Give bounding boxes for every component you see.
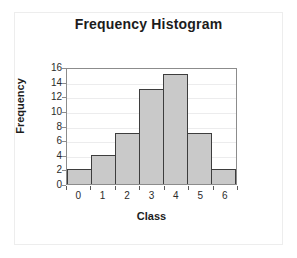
y-tick-label: 12 — [51, 92, 62, 102]
y-tick-mark — [62, 156, 66, 157]
y-tick-mark — [62, 112, 66, 113]
chart-title: Frequency Histogram — [0, 16, 297, 32]
y-tick-mark — [62, 68, 66, 69]
x-tick-mark — [188, 186, 189, 190]
y-tick-mark — [62, 83, 66, 84]
x-tick-mark — [237, 186, 238, 190]
x-tick-mark — [115, 186, 116, 190]
y-tick-label: 16 — [51, 63, 62, 73]
x-axis-title: Class — [66, 210, 237, 222]
x-axis-tick-labels: 0123456 — [66, 190, 237, 201]
bar — [187, 133, 212, 184]
x-tick-mark — [213, 186, 214, 190]
plot-area — [66, 68, 237, 185]
bar — [91, 155, 116, 184]
y-tick-mark — [62, 141, 66, 142]
bar — [163, 74, 188, 184]
y-tick-mark — [62, 127, 66, 128]
bar-series — [67, 69, 236, 184]
x-tick-mark — [66, 186, 67, 190]
x-tick-label: 2 — [115, 190, 139, 201]
y-tick-mark — [62, 185, 66, 186]
y-tick-mark — [62, 97, 66, 98]
y-tick-label: 14 — [51, 78, 62, 88]
y-tick-label: 10 — [51, 107, 62, 117]
x-tick-label: 6 — [213, 190, 237, 201]
bar — [115, 133, 140, 184]
x-tick-mark — [139, 186, 140, 190]
x-tick-label: 0 — [66, 190, 90, 201]
y-tick-mark — [62, 170, 66, 171]
bar — [67, 169, 92, 184]
bar — [139, 89, 164, 184]
x-tick-mark — [164, 186, 165, 190]
bar — [211, 169, 236, 184]
x-tick-mark — [90, 186, 91, 190]
x-tick-label: 1 — [90, 190, 114, 201]
x-tick-label: 3 — [139, 190, 163, 201]
y-axis-tick-labels: 1614121086420 — [40, 68, 62, 185]
x-tick-label: 4 — [164, 190, 188, 201]
y-axis-title: Frequency — [14, 66, 26, 146]
x-tick-label: 5 — [188, 190, 212, 201]
